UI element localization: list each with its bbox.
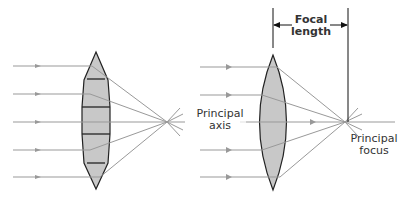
focal-length-line2: length xyxy=(290,26,332,38)
principal-focus-label: Principal focus xyxy=(346,133,402,157)
principal-focus-line2: focus xyxy=(346,145,402,157)
prism-lens-group xyxy=(82,52,110,189)
principal-axis-label: Principal axis xyxy=(194,108,246,132)
lens-diagram: Focal length Principal axis Principal fo… xyxy=(0,0,404,201)
lens-diagram-graphic xyxy=(0,0,404,201)
focal-length-label: Focal length xyxy=(290,14,332,38)
principal-axis-line2: axis xyxy=(194,120,246,132)
